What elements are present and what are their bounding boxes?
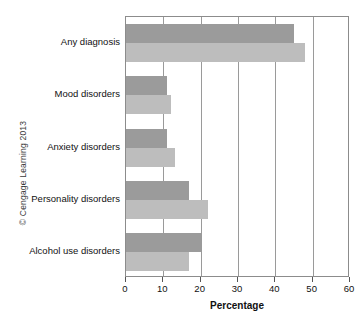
x-axis-tick-label: 60 (334, 283, 356, 294)
bar-group (126, 76, 348, 114)
bar-group (126, 24, 348, 62)
x-axis-tick (162, 277, 163, 282)
bar (126, 76, 167, 95)
bar-group (126, 181, 348, 219)
bar (126, 252, 189, 271)
bar (126, 148, 175, 167)
x-axis-tick (237, 277, 238, 282)
x-axis-tick-label: 30 (222, 283, 252, 294)
x-axis-tick-label: 50 (297, 283, 327, 294)
bar (126, 95, 171, 114)
x-axis-title: Percentage (125, 300, 349, 311)
category-label: Alcohol use disorders (0, 245, 120, 256)
bar (126, 24, 294, 43)
x-axis-tick (200, 277, 201, 282)
x-axis-tick-labels: 0102030405060 (0, 283, 356, 297)
x-axis-tick (349, 277, 350, 282)
category-label: Personality disorders (0, 193, 120, 204)
category-label: Mood disorders (0, 88, 120, 99)
x-axis-tick (125, 277, 126, 282)
bars-layer (126, 17, 348, 276)
x-axis-tick-label: 20 (185, 283, 215, 294)
figure-caption-cropped (52, 326, 202, 336)
bar-group (126, 129, 348, 167)
plot-area (125, 16, 349, 277)
bar (126, 43, 305, 62)
x-axis-tick-label: 0 (110, 283, 140, 294)
bar (126, 233, 201, 252)
category-axis-labels: Any diagnosisMood disordersAnxiety disor… (0, 16, 120, 277)
bar-chart: Any diagnosisMood disordersAnxiety disor… (0, 0, 356, 336)
x-axis-tick (274, 277, 275, 282)
category-label: Any diagnosis (0, 36, 120, 47)
x-axis-tick (312, 277, 313, 282)
x-axis-tick-label: 40 (259, 283, 289, 294)
bar (126, 181, 189, 200)
bar-group (126, 233, 348, 271)
bar (126, 200, 208, 219)
x-axis-tick-label: 10 (147, 283, 177, 294)
bar (126, 129, 167, 148)
category-label: Anxiety disorders (0, 141, 120, 152)
